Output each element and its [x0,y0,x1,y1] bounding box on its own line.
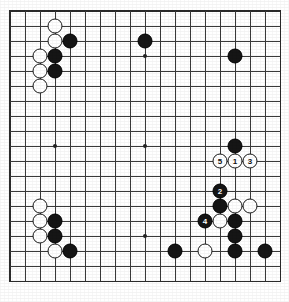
grid-line-vertical-18 [280,11,281,281]
white-stone-move-5[interactable]: 5 [213,154,228,169]
grid-line-horizontal-18 [10,281,280,282]
grid-line-horizontal-11 [10,176,280,177]
white-stone-13-16[interactable] [198,244,213,259]
stone-move-number: 3 [248,157,252,165]
black-stone-15-3[interactable] [228,49,243,64]
stone-move-number: 5 [218,157,222,165]
white-stone-3-2[interactable] [48,34,63,49]
white-stone-2-4[interactable] [33,64,48,79]
black-stone-4-2[interactable] [63,34,78,49]
grid-line-vertical-12 [190,11,191,281]
black-stone-15-16[interactable] [228,244,243,259]
stone-move-number: 4 [203,217,207,225]
grid-line-horizontal-12 [10,191,280,192]
white-stone-2-15[interactable] [33,229,48,244]
grid-line-horizontal-17 [10,266,280,267]
white-stone-2-3[interactable] [33,49,48,64]
black-stone-move-2[interactable]: 2 [213,184,228,199]
black-stone-3-3[interactable] [48,49,63,64]
grid-line-vertical-13 [205,11,206,281]
white-stone-14-14[interactable] [213,214,228,229]
black-stone-15-9[interactable] [228,139,243,154]
white-stone-3-16[interactable] [48,244,63,259]
go-board-container: 51324 [0,0,289,302]
white-stone-move-1[interactable]: 1 [228,154,243,169]
black-stone-15-14[interactable] [228,214,243,229]
black-stone-9-2[interactable] [138,34,153,49]
white-stone-16-13[interactable] [243,199,258,214]
white-stone-2-14[interactable] [33,214,48,229]
hoshi-top-point [143,54,147,58]
white-stone-15-13[interactable] [228,199,243,214]
hoshi-bottom-point [143,234,147,238]
black-stone-3-4[interactable] [48,64,63,79]
black-stone-3-14[interactable] [48,214,63,229]
hoshi-left-point [53,144,57,148]
grid-line-vertical-11 [175,11,176,281]
grid-line-vertical-17 [265,11,266,281]
white-stone-2-13[interactable] [33,199,48,214]
white-stone-3-1[interactable] [48,19,63,34]
stone-move-number: 2 [218,187,222,195]
go-diagram-root: 51324 [0,0,289,302]
white-stone-2-5[interactable] [33,79,48,94]
black-stone-3-15[interactable] [48,229,63,244]
black-stone-4-16[interactable] [63,244,78,259]
white-stone-move-3[interactable]: 3 [243,154,258,169]
black-stone-move-4[interactable]: 4 [198,214,213,229]
grid-line-vertical-14 [220,11,221,281]
go-board-grid: 51324 [10,11,280,281]
black-stone-15-15[interactable] [228,229,243,244]
grid-line-vertical-10 [160,11,161,281]
black-stone-11-16[interactable] [168,244,183,259]
black-stone-17-16[interactable] [258,244,273,259]
hoshi-center-point [143,144,147,148]
black-stone-14-13[interactable] [213,199,228,214]
grid-line-vertical-16 [250,11,251,281]
stone-move-number: 1 [233,157,237,165]
